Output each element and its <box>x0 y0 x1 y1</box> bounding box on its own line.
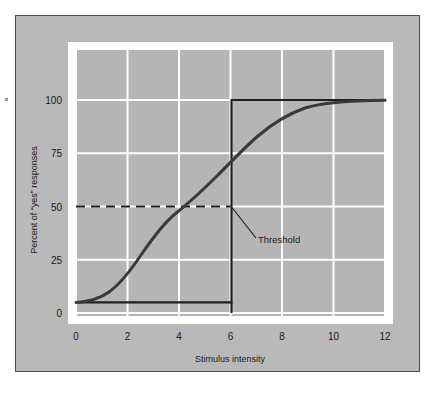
figure-frame <box>15 15 420 372</box>
figure-container: Threshold 0 2 4 6 8 10 12 0 25 50 75 100… <box>0 0 438 393</box>
page-speck <box>5 98 8 101</box>
